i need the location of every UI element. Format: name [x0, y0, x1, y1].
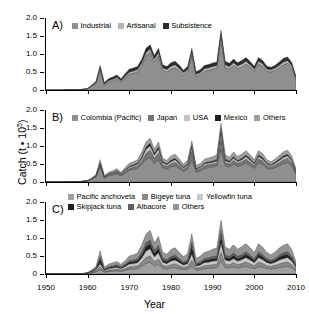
panel-c-area-chart: [46, 202, 296, 274]
x-tick-label: 1950: [37, 284, 55, 292]
legend-swatch-icon: [68, 204, 74, 210]
legend-swatch-icon: [254, 115, 260, 121]
legend-item: Pacific anchoveta: [68, 192, 135, 201]
legend-swatch-icon: [128, 204, 134, 210]
y-tick-mark: [40, 36, 44, 37]
legend-label: Industrial: [81, 21, 111, 30]
legend-swatch-icon: [173, 204, 179, 210]
y-tick-label: 0: [33, 86, 37, 94]
legend-item: Skipjack tuna: [68, 202, 121, 211]
x-tick-mark: [213, 182, 214, 186]
y-tick-label: 1.5: [26, 124, 37, 132]
legend-label: Others: [182, 202, 205, 211]
legend-label: Subsistence: [171, 21, 212, 30]
y-tick-label: 0.5: [26, 68, 37, 76]
x-tick-mark: [213, 274, 214, 278]
x-tick-label: 1990: [204, 284, 222, 292]
panel-a-letter: A): [52, 19, 63, 31]
x-tick-mark: [254, 90, 255, 94]
legend-label: Colombia (Pacific): [81, 113, 142, 122]
legend-swatch-icon: [142, 194, 148, 200]
legend-swatch-icon: [184, 115, 190, 121]
x-tick-mark: [296, 90, 297, 94]
x-axis-title: Year: [0, 298, 309, 310]
panel-c: 2.01.51.00.50 C) Pacific anchovetaBigeye…: [0, 192, 309, 284]
legend-item: Industrial: [72, 21, 111, 30]
x-tick-mark: [296, 182, 297, 186]
x-tick-mark: [88, 274, 89, 278]
y-tick-mark: [40, 90, 44, 91]
x-tick-label: 1970: [120, 284, 138, 292]
legend-label: Pacific anchoveta: [77, 192, 136, 201]
y-tick-label: 0: [33, 270, 37, 278]
y-tick-mark: [40, 164, 44, 165]
y-tick-mark: [40, 182, 44, 183]
panel-a: 2.01.51.00.50 A) IndustrialArtisanalSubs…: [0, 8, 309, 100]
legend-swatch-icon: [148, 115, 154, 121]
y-tick-label: 0.5: [26, 252, 37, 260]
legend-item: Albacore: [128, 202, 166, 211]
x-tick-mark: [171, 90, 172, 94]
legend-item: Colombia (Pacific): [72, 113, 141, 122]
y-tick-label: 1.0: [26, 142, 37, 150]
legend-label: Skipjack tuna: [77, 202, 122, 211]
x-tick-mark: [88, 182, 89, 186]
y-tick-label: 0.5: [26, 160, 37, 168]
y-tick-mark: [40, 18, 44, 19]
legend-item: Yellowfin tuna: [197, 192, 252, 201]
x-tick-mark: [171, 182, 172, 186]
legend-swatch-icon: [163, 23, 169, 29]
legend-swatch-icon: [118, 23, 124, 29]
x-tick-mark: [129, 274, 130, 278]
x-tick-mark: [46, 90, 47, 94]
y-tick-label: 1.0: [26, 234, 37, 242]
y-tick-label: 2.0: [26, 198, 37, 206]
legend-swatch-icon: [215, 115, 221, 121]
y-tick-label: 1.5: [26, 216, 37, 224]
x-tick-mark: [296, 274, 297, 278]
y-tick-mark: [40, 110, 44, 111]
x-tick-mark: [46, 182, 47, 186]
panel-c-legend-row1: Pacific anchovetaBigeye tunaYellowfin tu…: [68, 192, 306, 201]
legend-label: Albacore: [137, 202, 167, 211]
legend-label: Yellowfin tuna: [206, 192, 252, 201]
x-axis: Year 1950196019701980199020002010: [0, 284, 309, 314]
y-tick-mark: [40, 54, 44, 55]
legend-item: USA: [184, 113, 208, 122]
panel-b-letter: B): [52, 111, 63, 123]
x-tick-mark: [129, 90, 130, 94]
panel-a-legend: IndustrialArtisanalSubsistence: [72, 21, 302, 30]
figure-catch-timeseries: Catch (t • 105) 2.01.51.00.50 A) Industr…: [0, 0, 309, 314]
panel-b-legend: Colombia (Pacific)JapanUSAMexicoOthers: [72, 113, 304, 122]
panel-c-legend-row2: Skipjack tunaAlbacoreOthers: [68, 202, 306, 211]
legend-swatch-icon: [197, 194, 203, 200]
legend-item: Subsistence: [163, 21, 212, 30]
y-tick-label: 0: [33, 178, 37, 186]
x-tick-label: 2010: [287, 284, 305, 292]
y-tick-mark: [40, 202, 44, 203]
x-tick-mark: [213, 90, 214, 94]
x-tick-label: 1980: [162, 284, 180, 292]
y-tick-mark: [40, 256, 44, 257]
legend-item: Artisanal: [118, 21, 156, 30]
x-tick-mark: [254, 182, 255, 186]
y-tick-mark: [40, 220, 44, 221]
x-tick-mark: [88, 90, 89, 94]
y-tick-mark: [40, 72, 44, 73]
panel-c-y-ticks: 2.01.51.00.50: [0, 202, 44, 274]
legend-label: USA: [193, 113, 208, 122]
legend-label: Artisanal: [126, 21, 155, 30]
legend-item: Japan: [148, 113, 177, 122]
legend-label: Others: [263, 113, 286, 122]
y-tick-label: 1.5: [26, 32, 37, 40]
x-tick-mark: [254, 274, 255, 278]
x-tick-label: 2000: [245, 284, 263, 292]
panel-c-plot-area: [46, 202, 296, 274]
legend-swatch-icon: [72, 115, 78, 121]
legend-label: Japan: [157, 113, 177, 122]
y-tick-label: 1.0: [26, 50, 37, 58]
legend-label: Bigeye tuna: [151, 192, 191, 201]
panel-c-letter: C): [52, 203, 64, 215]
legend-swatch-icon: [68, 194, 74, 200]
x-tick-mark: [46, 274, 47, 278]
